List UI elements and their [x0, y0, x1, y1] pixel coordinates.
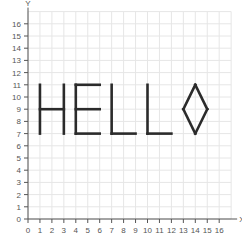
y-tick-label: 12 — [12, 69, 21, 78]
y-tick-label: 6 — [17, 142, 22, 151]
x-tick-label: 13 — [179, 226, 188, 235]
y-tick-label: 15 — [12, 32, 21, 41]
x-tick-label: 6 — [97, 226, 102, 235]
y-tick-label: 2 — [17, 191, 22, 200]
x-tick-label: 0 — [26, 226, 31, 235]
x-tick-label: 15 — [203, 226, 212, 235]
grid — [28, 12, 231, 219]
y-tick-label: 3 — [17, 178, 22, 187]
x-tick-label: 9 — [133, 226, 138, 235]
y-tick-label: 13 — [12, 56, 21, 65]
y-tick-label: 1 — [17, 203, 22, 212]
x-tick-label: 2 — [50, 226, 55, 235]
x-tick-label: 12 — [167, 226, 176, 235]
x-tick-label: 14 — [191, 226, 200, 235]
y-axis-label: Y — [25, 0, 31, 8]
y-tick-label: 4 — [17, 166, 22, 175]
coordinate-plane: 0123456789101112131415160123456789101112… — [0, 0, 242, 247]
y-tick-label: 9 — [17, 105, 22, 114]
y-tick-label: 11 — [13, 81, 22, 90]
y-tick-label: 7 — [17, 130, 22, 139]
x-axis-label: X — [239, 215, 242, 224]
x-tick-label: 4 — [74, 226, 79, 235]
y-tick-label: 14 — [12, 44, 21, 53]
y-tick-label: 10 — [12, 93, 21, 102]
y-tick-label: 8 — [17, 117, 22, 126]
x-tick-label: 1 — [38, 226, 43, 235]
x-tick-label: 3 — [62, 226, 67, 235]
x-tick-label: 5 — [86, 226, 91, 235]
x-tick-label: 10 — [143, 226, 152, 235]
y-tick-label: 0 — [17, 215, 22, 224]
x-tick-label: 7 — [109, 226, 114, 235]
x-tick-label: 11 — [155, 226, 164, 235]
y-tick-label: 16 — [12, 20, 21, 29]
x-tick-label: 16 — [215, 226, 224, 235]
y-tick-label: 5 — [17, 154, 22, 163]
x-tick-label: 8 — [121, 226, 126, 235]
